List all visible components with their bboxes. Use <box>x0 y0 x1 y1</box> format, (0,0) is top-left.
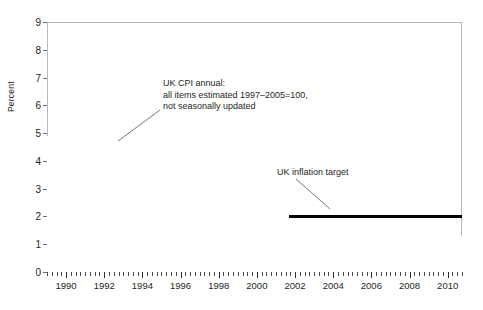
x-tick-mark <box>161 272 162 276</box>
y-tick-label: 7 <box>19 72 41 83</box>
x-tick-mark <box>348 272 349 276</box>
y-tick-label: 6 <box>19 100 41 111</box>
x-tick-mark <box>262 272 263 276</box>
y-tick-label: 2 <box>19 211 41 222</box>
x-tick-mark <box>414 272 415 276</box>
x-tick-mark <box>166 272 167 276</box>
cpi-series-annotation: UK CPI annual: all items estimated 1997–… <box>163 78 308 113</box>
x-tick-mark <box>200 272 201 276</box>
x-tick-mark <box>462 272 463 276</box>
x-tick-mark <box>238 272 239 276</box>
x-tick-mark <box>433 272 434 276</box>
x-tick-mark <box>367 272 368 276</box>
x-tick-mark <box>243 272 244 276</box>
x-tick-mark <box>90 272 91 276</box>
x-tick-label: 1998 <box>208 280 229 291</box>
y-tick-label: 9 <box>19 17 41 28</box>
x-tick-mark-major <box>142 272 143 278</box>
x-tick-mark <box>395 272 396 276</box>
x-tick-mark-major <box>371 272 372 278</box>
x-tick-mark <box>223 272 224 276</box>
x-tick-mark <box>99 272 100 276</box>
x-tick-mark <box>152 272 153 276</box>
x-tick-mark <box>209 272 210 276</box>
x-tick-label: 2000 <box>246 280 267 291</box>
x-tick-mark <box>309 272 310 276</box>
x-tick-mark <box>281 272 282 276</box>
bar-series <box>47 22 483 272</box>
x-tick-label: 1994 <box>132 280 153 291</box>
x-tick-mark <box>452 272 453 276</box>
x-tick-mark <box>438 272 439 276</box>
x-tick-mark <box>233 272 234 276</box>
x-tick-mark <box>123 272 124 276</box>
x-tick-mark <box>381 272 382 276</box>
x-tick-mark <box>443 272 444 276</box>
x-tick-mark <box>95 272 96 276</box>
x-tick-mark <box>228 272 229 276</box>
x-tick-mark <box>400 272 401 276</box>
x-tick-mark <box>138 272 139 276</box>
x-tick-mark <box>357 272 358 276</box>
x-tick-mark <box>57 272 58 276</box>
y-tick-label: 4 <box>19 155 41 166</box>
x-tick-mark <box>328 272 329 276</box>
x-tick-mark <box>386 272 387 276</box>
x-tick-mark-major <box>219 272 220 278</box>
x-tick-mark <box>128 272 129 276</box>
x-tick-mark <box>286 272 287 276</box>
y-tick-label: 5 <box>19 128 41 139</box>
x-tick-mark <box>247 272 248 276</box>
x-tick-label: 1996 <box>170 280 191 291</box>
x-tick-mark <box>271 272 272 276</box>
x-tick-mark-major <box>333 272 334 278</box>
x-tick-mark <box>61 272 62 276</box>
x-tick-mark <box>204 272 205 276</box>
x-tick-mark-major <box>181 272 182 278</box>
x-tick-mark <box>424 272 425 276</box>
x-tick-mark <box>157 272 158 276</box>
x-tick-label: 2006 <box>361 280 382 291</box>
x-tick-mark <box>176 272 177 276</box>
cpi-annotation-line-2: all items estimated 1997–2005=100, <box>163 90 308 102</box>
x-tick-mark-major <box>257 272 258 278</box>
x-tick-mark-major <box>295 272 296 278</box>
chart-figure: Percent 0123456789 199019921994199619982… <box>0 0 483 310</box>
x-tick-label: 1990 <box>56 280 77 291</box>
x-tick-mark <box>76 272 77 276</box>
x-tick-mark <box>147 272 148 276</box>
x-tick-mark <box>314 272 315 276</box>
x-tick-mark-major <box>410 272 411 278</box>
x-tick-mark <box>85 272 86 276</box>
x-tick-label: 2010 <box>437 280 458 291</box>
target-annotation-label: UK inflation target <box>277 167 349 179</box>
x-tick-mark <box>52 272 53 276</box>
x-tick-mark-major <box>448 272 449 278</box>
x-tick-mark <box>362 272 363 276</box>
x-tick-mark <box>171 272 172 276</box>
cpi-annotation-line-3: not seasonally updated <box>163 101 308 113</box>
x-tick-mark <box>324 272 325 276</box>
inflation-target-line <box>289 215 462 218</box>
x-tick-mark <box>352 272 353 276</box>
x-tick-label: 2008 <box>399 280 420 291</box>
x-tick-mark <box>319 272 320 276</box>
x-tick-mark <box>190 272 191 276</box>
y-tick-label: 3 <box>19 183 41 194</box>
x-tick-mark <box>429 272 430 276</box>
x-tick-mark <box>133 272 134 276</box>
x-tick-mark-major <box>104 272 105 278</box>
y-axis-title: Percent <box>6 81 16 112</box>
cpi-annotation-line-1: UK CPI annual: <box>163 78 308 90</box>
x-tick-mark <box>376 272 377 276</box>
x-tick-mark <box>80 272 81 276</box>
x-tick-label: 2004 <box>323 280 344 291</box>
x-tick-mark <box>119 272 120 276</box>
x-tick-mark <box>457 272 458 276</box>
y-tick-label: 1 <box>19 239 41 250</box>
x-tick-mark <box>390 272 391 276</box>
x-tick-mark <box>252 272 253 276</box>
x-tick-mark <box>276 272 277 276</box>
x-tick-mark <box>300 272 301 276</box>
x-tick-mark <box>305 272 306 276</box>
